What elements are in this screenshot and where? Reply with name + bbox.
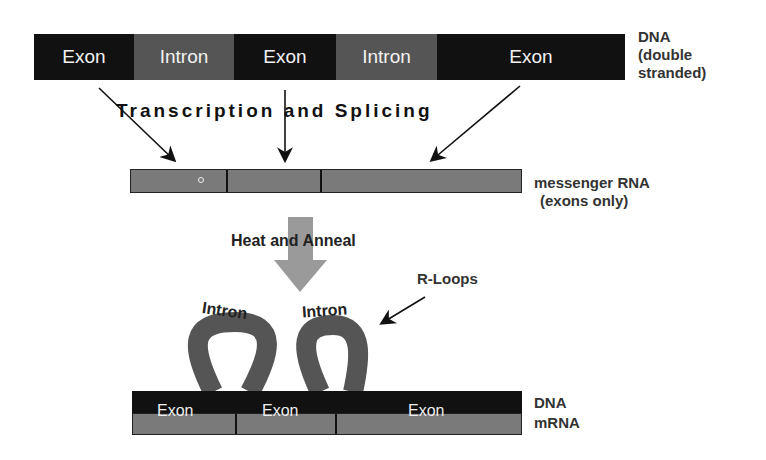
hybrid-dna-label: DNA — [534, 394, 567, 412]
hybrid-exon-label-1: Exon — [157, 402, 193, 420]
intron-loop-label-2: Intron — [301, 300, 347, 321]
hybrid-exon-label-3: Exon — [408, 402, 444, 420]
r-loop-1 — [198, 322, 267, 392]
rloops-label: R-Loops — [417, 270, 478, 288]
down-arrow-icon — [274, 217, 327, 292]
hybrid-exon-label-2: Exon — [262, 402, 298, 420]
hybrid-mrna-label: mRNA — [534, 414, 580, 432]
anneal-label: Heat and Anneal — [231, 232, 356, 250]
mrna-divider — [235, 414, 237, 434]
mrna-divider — [335, 414, 337, 434]
r-loop-2 — [306, 325, 358, 392]
